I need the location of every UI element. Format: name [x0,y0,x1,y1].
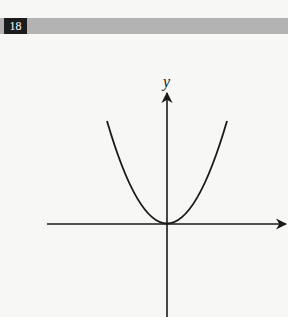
y-axis-label: y [161,73,171,91]
parabola-graph: y [0,0,288,317]
